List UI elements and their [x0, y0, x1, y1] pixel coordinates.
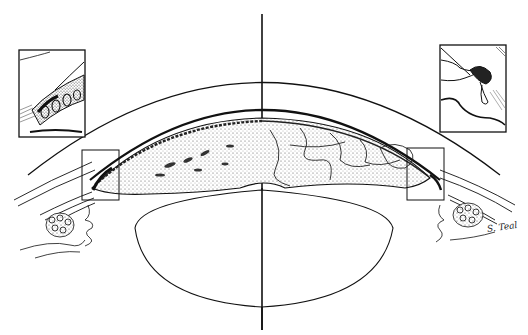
- eye-anterior-segment-illustration: [0, 0, 528, 335]
- ciliary-body-right: [436, 203, 495, 242]
- iris-cross-section: [92, 118, 430, 194]
- lens: [135, 190, 393, 307]
- ciliary-body-left: [20, 205, 93, 258]
- right-inset: [440, 45, 506, 132]
- left-inset: [19, 50, 85, 137]
